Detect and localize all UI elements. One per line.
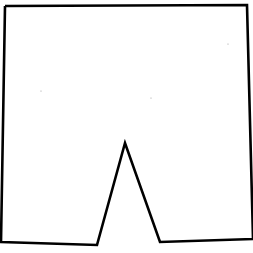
- speck: [40, 90, 41, 91]
- noise-specks: [40, 43, 228, 98]
- diagram-canvas: [0, 0, 253, 253]
- speck: [150, 97, 151, 98]
- shorts-outline: [1, 5, 253, 245]
- speck: [227, 43, 228, 44]
